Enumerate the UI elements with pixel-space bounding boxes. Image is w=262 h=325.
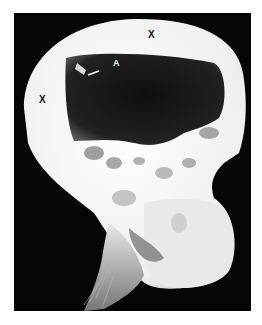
radiograph-image: X X A [14,13,251,311]
annotation-a: A [113,58,120,68]
annotation-x-left: X [39,94,46,105]
annotation-x-top: X [148,29,155,40]
skull-xray-drawing [14,13,251,311]
facial-bones [144,199,235,288]
